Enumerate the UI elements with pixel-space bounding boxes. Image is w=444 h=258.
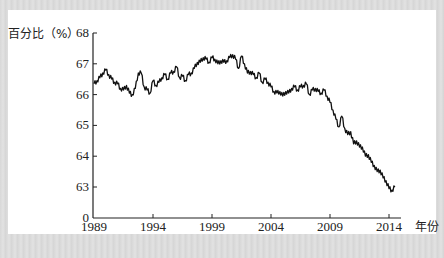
series-line [94, 54, 395, 191]
y-tick-label: 67 [76, 56, 90, 71]
y-tick-label: 63 [76, 179, 89, 194]
x-axis: 198919941999200420092014 [81, 214, 403, 234]
y-tick-label: 65 [76, 117, 89, 132]
y-tick-label: 66 [76, 87, 90, 102]
x-tick-label: 1989 [81, 219, 107, 234]
x-tick-label: 2009 [317, 219, 343, 234]
x-tick-label: 1994 [140, 219, 167, 234]
x-axis-title: 年份 [415, 220, 439, 234]
x-tick-label: 1999 [199, 219, 225, 234]
y-tick-label: 64 [76, 148, 90, 163]
y-axis: 6867666564630 [76, 25, 97, 225]
x-tick-label: 2004 [258, 219, 285, 234]
y-axis-title: 百分比（%） [8, 27, 79, 41]
x-tick-label: 2014 [376, 219, 403, 234]
y-tick-label: 68 [76, 25, 89, 40]
line-chart: 百分比（%） 6867666564630 1989199419992004200… [0, 0, 444, 258]
